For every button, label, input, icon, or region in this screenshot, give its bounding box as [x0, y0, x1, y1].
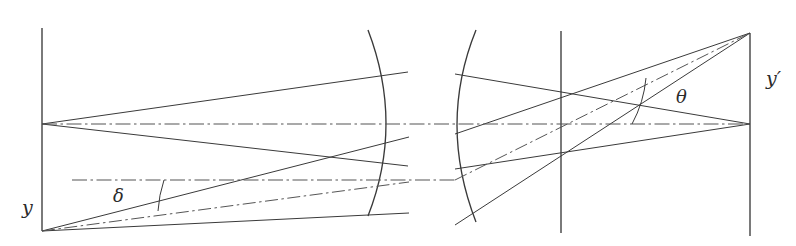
- canvas-background: [0, 0, 796, 246]
- diagram-canvas: y y′ δ θ: [0, 0, 796, 246]
- delta-angle-label: δ: [113, 185, 124, 206]
- optical-ray-diagram: y y′ δ θ: [0, 0, 796, 246]
- theta-angle-label: θ: [676, 86, 687, 107]
- image-height-label: y′: [765, 67, 782, 89]
- object-height-label: y: [21, 196, 33, 218]
